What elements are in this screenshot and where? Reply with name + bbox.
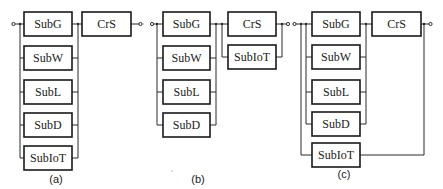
panel-c: SubG SubW SubL SubD SubIoT CrS (c) xyxy=(293,12,432,180)
block-label: SubG xyxy=(173,17,201,31)
block-label: CrS xyxy=(387,17,406,31)
junction-dot xyxy=(423,23,425,25)
junction-dot xyxy=(281,23,283,25)
input-terminal xyxy=(150,22,153,25)
panel-a: SubG SubW SubL SubD SubIoT CrS (a) xyxy=(12,12,142,185)
output-terminal xyxy=(286,22,289,25)
stray-mark xyxy=(171,170,173,172)
junction-dot xyxy=(365,23,367,25)
block-label: SubIoT xyxy=(234,50,271,64)
block-label: SubL xyxy=(35,85,61,99)
block-label: SubW xyxy=(321,50,352,64)
panel-caption: (b) xyxy=(191,173,204,185)
block-label: SubW xyxy=(172,51,203,65)
block-label: CrS xyxy=(97,17,116,31)
block-label: SubD xyxy=(34,118,62,132)
input-terminal xyxy=(293,22,296,25)
block-label: SubIoT xyxy=(30,151,67,165)
junction-dot xyxy=(77,23,79,25)
block-label: CrS xyxy=(243,17,262,31)
panel-caption: (c) xyxy=(338,168,351,180)
stray-mark xyxy=(142,23,144,25)
block-label: SubD xyxy=(322,117,350,131)
block-label: SubL xyxy=(323,85,349,99)
block-label: SubW xyxy=(33,51,64,65)
junction-dot xyxy=(215,23,217,25)
block-label: SubD xyxy=(173,118,201,132)
panel-b: SubG SubW SubL SubD CrS SubIoT (b) xyxy=(142,12,290,185)
block-label: SubG xyxy=(34,17,62,31)
output-terminal xyxy=(139,22,142,25)
block-label: SubG xyxy=(322,17,350,31)
panel-caption: (a) xyxy=(49,173,62,185)
block-label: SubIoT xyxy=(318,148,355,162)
block-label: SubL xyxy=(173,85,199,99)
output-terminal xyxy=(429,22,432,25)
reliability-diagrams: SubG SubW SubL SubD SubIoT CrS (a) xyxy=(0,0,443,189)
input-terminal xyxy=(12,22,15,25)
